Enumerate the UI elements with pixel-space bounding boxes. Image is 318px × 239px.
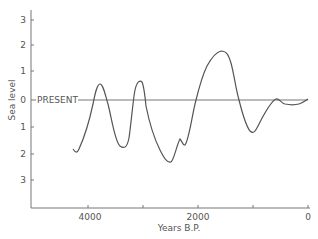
x-axis-title: Years B.P. bbox=[157, 223, 201, 233]
sea-level-curve bbox=[73, 51, 308, 162]
y-tick-label: 2 bbox=[20, 40, 26, 50]
y-tick-labels: 3 2 1 0 1 2 3 bbox=[20, 15, 26, 185]
y-tick-label: 3 bbox=[20, 175, 26, 185]
y-axis-title: Sea level bbox=[7, 79, 17, 120]
y-tick-label: 1 bbox=[20, 122, 26, 132]
present-label: PRESENT bbox=[37, 95, 78, 105]
x-tick-label: 0 bbox=[305, 212, 311, 222]
x-tick-labels: 4000 2000 0 bbox=[79, 212, 312, 222]
y-tick-label: 3 bbox=[20, 15, 26, 25]
sea-level-chart: 3 2 1 0 1 2 3 4000 2000 0 Years B.P. Sea… bbox=[0, 0, 318, 239]
x-tick-label: 2000 bbox=[187, 212, 210, 222]
y-tick-label: 0 bbox=[20, 95, 26, 105]
y-tick-label: 2 bbox=[20, 149, 26, 159]
y-tick-label: 1 bbox=[20, 66, 26, 76]
x-tick-label: 4000 bbox=[79, 212, 102, 222]
